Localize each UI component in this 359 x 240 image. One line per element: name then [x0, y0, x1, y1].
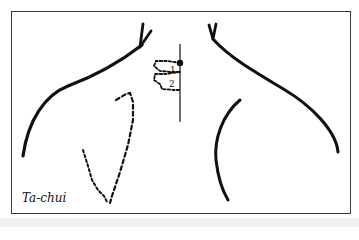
- scapula-dashed-lower-outline: [83, 150, 107, 202]
- right-shoulder-outline: [213, 39, 338, 152]
- scapula-dashed-outline: [110, 93, 133, 203]
- right-arm-inner-outline: [216, 100, 240, 200]
- point-label-1: 1: [170, 65, 176, 75]
- figure-caption: Ta-chui: [22, 191, 66, 205]
- left-shoulder-outline: [23, 45, 142, 156]
- vertebrae-dashed-outline: [154, 61, 180, 90]
- acupoint-dot: [177, 60, 183, 66]
- left-neck-outline: [140, 24, 151, 47]
- right-neck-outline: [209, 24, 216, 39]
- point-label-2: 2: [169, 79, 175, 89]
